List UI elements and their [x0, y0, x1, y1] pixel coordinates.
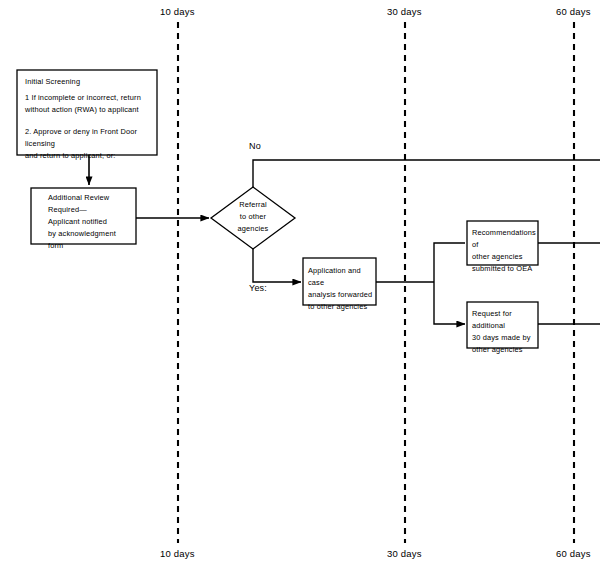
connector-split-to-request-additional	[434, 282, 465, 324]
node-initial-screening-heading: Initial Screening	[25, 76, 153, 88]
node-initial-screening-item-1: 1 If incomplete or incorrect, return wit…	[25, 92, 157, 116]
connector-split-to-recommendations	[434, 243, 465, 282]
connector-yes-branch	[253, 249, 301, 282]
node-initial-screening-item-2: 2. Approve or deny in Front Door licensi…	[25, 126, 159, 162]
node-additional-review-text: Additional Review Required— Applicant no…	[48, 192, 136, 252]
node-application-forwarded-text: Application and case analysis forwarded …	[308, 265, 378, 313]
connector-no-branch	[253, 160, 600, 187]
flowchart-canvas: 10 days 30 days 60 days 10 days 30 days …	[0, 0, 600, 573]
node-referral-decision-text: Referral to other agencies	[223, 199, 283, 235]
node-request-additional-text: Request for additional 30 days made by o…	[472, 308, 540, 356]
node-recommendations-text: Recommendations of other agencies submit…	[472, 227, 540, 275]
